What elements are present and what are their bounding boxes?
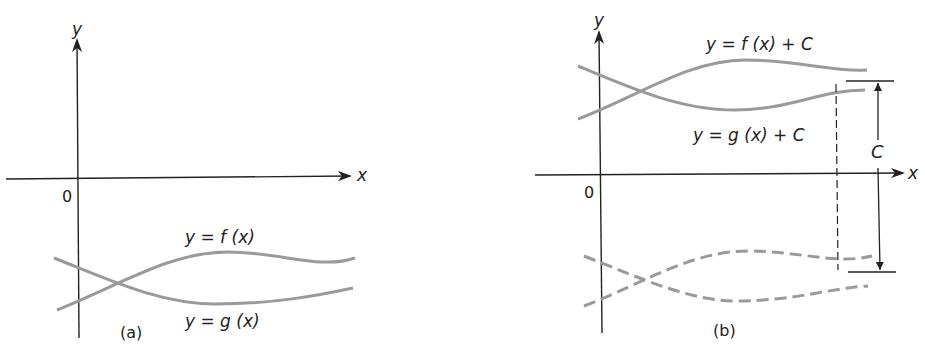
- curve-f-dashed: [584, 251, 872, 306]
- x-axis-label: x: [356, 165, 368, 185]
- panel-a: y x 0 y = f (x) y = g (x) (a): [6, 19, 368, 342]
- origin-label: 0: [584, 183, 594, 202]
- y-axis-label: y: [593, 10, 605, 30]
- curve-g-dashed: [584, 256, 868, 301]
- panel-caption: (a): [120, 323, 142, 342]
- curve-g-label: y = g (x) + C: [692, 125, 805, 145]
- panel-caption: (b): [713, 321, 736, 340]
- curve-f-label: y = f (x): [184, 227, 255, 247]
- y-axis-label: y: [71, 19, 83, 39]
- y-axis: [77, 40, 79, 338]
- x-axis-label: x: [907, 163, 919, 183]
- dashed-connector: [836, 84, 838, 270]
- x-axis: [6, 176, 350, 179]
- x-axis: [535, 173, 903, 175]
- curve-g: [54, 258, 353, 304]
- diagram-canvas: y x 0 y = f (x) y = g (x) (a) y x 0 y = …: [0, 0, 925, 356]
- curve-g-label: y = g (x): [184, 311, 260, 331]
- origin-label: 0: [62, 187, 72, 206]
- c-arrow-down: [878, 168, 880, 270]
- curve-f-label: y = f (x) + C: [705, 34, 813, 54]
- curve-g-shifted: [578, 66, 865, 110]
- shift-label: C: [871, 141, 884, 162]
- curve-f: [57, 252, 355, 310]
- panel-b: y x 0 y = f (x) + C y = g (x) + C C (b): [535, 10, 919, 340]
